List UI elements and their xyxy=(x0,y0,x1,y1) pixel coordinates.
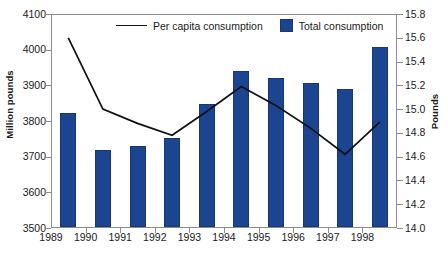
line-series-per-capita-consumption xyxy=(51,14,397,228)
y-tick-label-left: 3900 xyxy=(2,80,46,91)
x-tick-mark xyxy=(328,228,329,233)
chart-container: Million pounds Pounds 350036003700380039… xyxy=(0,0,448,257)
x-tick-mark xyxy=(259,228,260,233)
y-tick-label-left: 4100 xyxy=(2,9,46,20)
y-tick-mark-right xyxy=(397,228,403,229)
y-tick-label-right: 15.2 xyxy=(405,80,445,91)
chart-legend: Per capita consumption Total consumption xyxy=(116,19,383,32)
y-tick-label-right: 14.2 xyxy=(405,199,445,210)
y-tick-mark-left xyxy=(45,228,51,229)
x-tick-mark xyxy=(155,228,156,233)
y-tick-label-right: 15.0 xyxy=(405,104,445,115)
legend-item-total-consumption: Total consumption xyxy=(280,19,384,32)
y-tick-label-left: 4000 xyxy=(2,44,46,55)
legend-item-per-capita-consumption: Per capita consumption xyxy=(116,20,263,32)
x-tick-mark xyxy=(189,228,190,233)
y-tick-label-left: 3700 xyxy=(2,151,46,162)
y-tick-label-right: 14.0 xyxy=(405,223,445,234)
y-tick-mark-right xyxy=(397,38,403,39)
legend-label-per-capita-consumption: Per capita consumption xyxy=(153,20,263,32)
x-tick-mark xyxy=(120,228,121,233)
y-tick-label-left: 3600 xyxy=(2,187,46,198)
y-tick-mark-right xyxy=(397,180,403,181)
y-tick-mark-right xyxy=(397,133,403,134)
y-tick-label-right: 14.4 xyxy=(405,175,445,186)
x-tick-label: 1998 xyxy=(342,232,382,243)
y-tick-mark-right xyxy=(397,204,403,205)
legend-label-total-consumption: Total consumption xyxy=(299,20,384,32)
y-tick-label-right: 14.6 xyxy=(405,151,445,162)
y-tick-mark-right xyxy=(397,109,403,110)
y-tick-mark-right xyxy=(397,14,403,15)
y-tick-mark-right xyxy=(397,85,403,86)
x-tick-mark xyxy=(362,228,363,233)
x-tick-mark xyxy=(224,228,225,233)
y-tick-label-left: 3800 xyxy=(2,116,46,127)
y-tick-mark-right xyxy=(397,62,403,63)
bar-swatch-icon xyxy=(280,19,293,32)
y-axis-title-left: Million pounds xyxy=(4,65,15,145)
x-tick-mark xyxy=(86,228,87,233)
y-tick-label-right: 15.6 xyxy=(405,32,445,43)
y-tick-label-right: 15.8 xyxy=(405,9,445,20)
y-tick-label-right: 15.4 xyxy=(405,56,445,67)
x-tick-mark xyxy=(293,228,294,233)
y-tick-mark-right xyxy=(397,157,403,158)
y-tick-label-right: 14.8 xyxy=(405,127,445,138)
line-swatch-icon xyxy=(116,25,147,26)
